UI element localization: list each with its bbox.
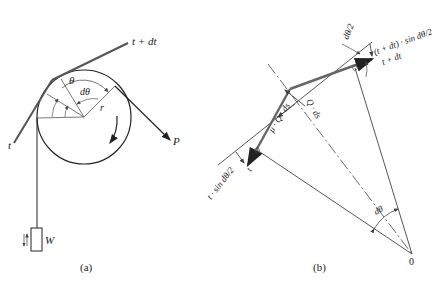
label-t-plus-dt: t + dt — [132, 35, 157, 47]
panel-a: t + dt θ dθ r t P W (a) — [8, 35, 180, 274]
label-b-half-angle-top: dθ/2 — [341, 22, 356, 41]
panel-b: dθ/2 (t + dt) · sin dθ/2 t + dt μ · Q · … — [205, 22, 434, 274]
label-dtheta: dθ — [80, 86, 90, 97]
label-b-dtheta: dθ — [372, 203, 385, 216]
caption-a: (a) — [80, 261, 93, 274]
label-w: W — [45, 234, 55, 246]
center-dash-line — [268, 64, 412, 254]
label-p: P — [172, 135, 180, 147]
label-component-in: t · sin dθ/2 — [205, 165, 237, 201]
radius-left — [257, 150, 412, 254]
belt-slack-side — [14, 80, 52, 143]
weight-block — [31, 228, 42, 251]
label-theta: θ — [69, 74, 75, 86]
tangent-line — [218, 42, 372, 165]
dtheta-arc-inner — [65, 106, 68, 117]
pull-force-arrow — [115, 86, 170, 140]
belt-friction-diagram: t + dt θ dθ r t P W (a) dθ/2 (t + dt) — [0, 0, 446, 282]
label-normal: Q · ds — [304, 97, 324, 121]
label-r: r — [100, 102, 104, 113]
radius-right — [355, 68, 412, 254]
label-component-out: (t + dt) · sin dθ/2 — [372, 26, 434, 57]
rotation-arrow — [110, 116, 117, 143]
half-angle-arc-bottom — [366, 62, 367, 77]
half-angle-arc-top — [342, 44, 360, 54]
caption-b: (b) — [313, 261, 326, 274]
label-friction: μ · Q · ds — [266, 101, 293, 135]
belt-tight-side — [52, 43, 128, 80]
component-arrow-out — [370, 44, 372, 56]
label-t: t — [8, 139, 12, 151]
component-arrow-in — [236, 152, 244, 163]
dtheta-arc-left — [52, 99, 58, 117]
dtheta-pointer — [77, 99, 98, 104]
label-b-t: t — [244, 165, 254, 173]
radius-horizontal — [37, 117, 84, 118]
label-center-0: 0 — [409, 256, 414, 267]
